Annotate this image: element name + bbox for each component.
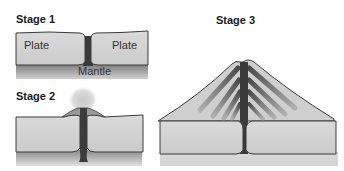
stage-2-diagram	[16, 86, 143, 166]
stage-1-left-plate-label: Plate	[24, 39, 49, 51]
stage-3-diagram	[158, 60, 338, 166]
stage-3-left-plate	[160, 121, 243, 154]
stage-1-mantle-label: Mantle	[78, 65, 111, 77]
stage-1-diagram: Plate Plate Mantle	[16, 31, 148, 79]
stage-2-right-plate	[87, 115, 143, 152]
stage-2-magma-channel	[79, 108, 88, 162]
volcano-stages-diagram: Plate Plate Mantle	[0, 0, 344, 171]
stage-2-left-plate	[16, 115, 80, 152]
stage-3-right-plate	[246, 121, 336, 154]
stage-1-right-plate-label: Plate	[112, 39, 137, 51]
